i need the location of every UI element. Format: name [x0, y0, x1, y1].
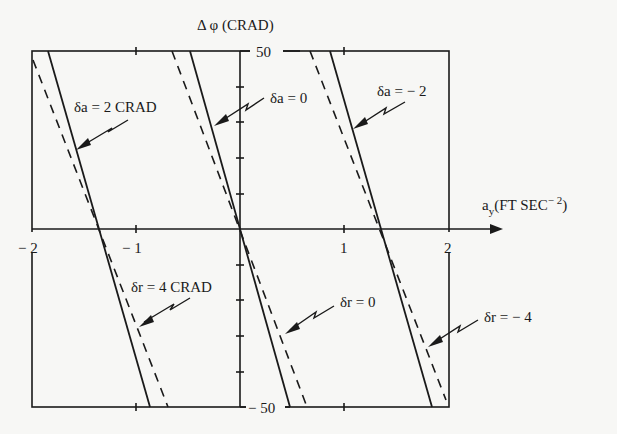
x-tick-2: 2: [444, 240, 452, 256]
chart: Δ φ (CRAD) 50 − 50 − 2 − 1 1 2 ay(FT SEC…: [0, 0, 617, 434]
x-tick-1: 1: [340, 240, 348, 256]
label-da-neg2: δa = − 2: [377, 83, 426, 99]
y-tick-neg50: − 50: [248, 400, 275, 416]
arrowhead-icon: [139, 315, 154, 327]
label-dr-4: δr = 4 CRAD: [131, 279, 212, 295]
y-axis-title: Δ φ (CRAD): [197, 17, 274, 34]
arrowhead-icon: [428, 335, 443, 347]
arrowhead-icon: [214, 114, 229, 126]
arrowhead-icon: [76, 138, 91, 150]
arrowhead-icon: [353, 117, 368, 129]
arrowhead-icon: [285, 322, 300, 334]
x-tick-neg1: − 1: [122, 240, 142, 256]
x-tick-neg2: − 2: [18, 240, 38, 256]
line-dr-neg4: [310, 51, 446, 400]
x-axis-arrow-icon: [490, 224, 503, 234]
label-da-2: δa = 2 CRAD: [74, 99, 157, 115]
x-axis-title: ay(FT SEC− 2): [482, 194, 567, 217]
label-dr-0: δr = 0: [340, 294, 376, 310]
label-da-0: δa = 0: [270, 90, 307, 106]
label-dr-neg4: δr = − 4: [484, 309, 532, 325]
y-tick-50: 50: [256, 44, 271, 60]
